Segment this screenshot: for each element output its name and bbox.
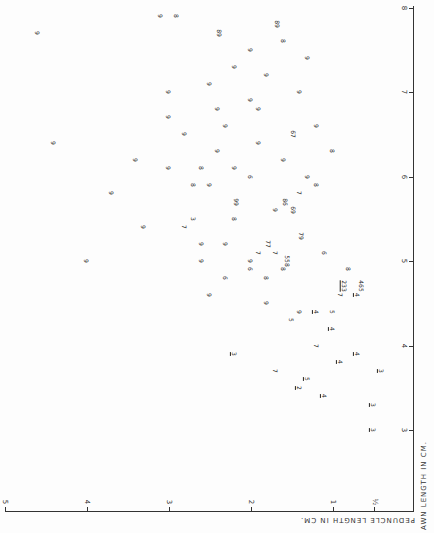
awn-tick [409, 8, 413, 9]
data-point: 9 [222, 124, 228, 128]
data-point: 67 [290, 130, 296, 138]
data-point: 9 [222, 242, 228, 246]
awn-tick-label: 4 [400, 343, 408, 347]
data-point: 9 [108, 191, 114, 195]
data-point: 9 [206, 82, 212, 86]
awn-tick-label: 3 [400, 428, 408, 432]
data-point: 465 [357, 281, 363, 292]
data-point: 9 [255, 141, 261, 145]
peduncle-tick-label: 5 [1, 500, 9, 504]
data-point: 8 [280, 39, 286, 43]
peduncle-tick [374, 507, 375, 511]
data-point: 9 [304, 175, 310, 179]
data-point: 79 [298, 232, 304, 240]
data-point: 86 [282, 198, 288, 206]
data-point: 7 [313, 344, 319, 348]
peduncle-axis-line [5, 511, 414, 512]
peduncle-tick-label: 4 [83, 500, 91, 504]
data-point: 9 [157, 14, 163, 18]
peduncle-tick-label: 2 [247, 500, 255, 504]
data-point: 9 [247, 48, 253, 52]
awn-axis-title: AWN LENGTH IN CM. [420, 441, 428, 530]
data-point: 9 [263, 73, 269, 77]
data-point: 8 [313, 183, 319, 187]
data-point: 4 [329, 327, 335, 331]
peduncle-tick [87, 507, 88, 511]
data-point: 9 [231, 65, 237, 69]
data-point: 8 [329, 149, 335, 153]
peduncle-tick-label: 1 [329, 500, 337, 504]
peduncle-tick [333, 507, 334, 511]
data-point: 9 [263, 301, 269, 305]
data-point: 6 [247, 268, 253, 272]
peduncle-tick-label: ½ [371, 499, 379, 506]
awn-tick-label: 6 [400, 174, 408, 178]
awn-tick [409, 92, 413, 93]
data-point: 9 [140, 225, 146, 229]
data-point: 8 [173, 14, 179, 18]
data-point: 9 [132, 158, 138, 162]
data-point: 7 [337, 293, 343, 297]
awn-tick [409, 177, 413, 178]
data-point: 6 [222, 276, 228, 280]
data-point: 9 [272, 208, 278, 212]
data-point: 5 [288, 318, 294, 322]
data-point: 89 [216, 29, 222, 37]
data-point: 4 [337, 360, 343, 364]
data-point: 9 [206, 293, 212, 297]
data-point: 9 [296, 310, 302, 314]
awn-tick [409, 346, 413, 347]
data-point: 9 [50, 141, 56, 145]
data-point: 9 [165, 115, 171, 119]
data-point: 2 [296, 386, 302, 390]
data-point: 9 [231, 166, 237, 170]
data-point: 9 [247, 99, 253, 103]
data-point: 9 [165, 90, 171, 94]
data-point: 3 [370, 403, 376, 407]
data-point: 7 [255, 251, 261, 255]
data-point: 9 [255, 107, 261, 111]
data-point: 3 [231, 352, 237, 356]
peduncle-tick [251, 507, 252, 511]
awn-tick [409, 430, 413, 431]
data-point: 89 [273, 21, 279, 29]
awn-tick-label: 7 [400, 90, 408, 94]
data-point: 4 [354, 352, 360, 356]
data-point: 9 [280, 158, 286, 162]
data-point: 3 [378, 369, 384, 373]
data-point: 9 [34, 31, 40, 35]
data-point: 6 [321, 251, 327, 255]
data-point: 9 [214, 107, 220, 111]
data-point: 9 [198, 259, 204, 263]
data-point: 4 [321, 394, 327, 398]
data-point: 3 [190, 217, 196, 221]
data-point: 233 [341, 281, 347, 292]
data-point: 3 [370, 428, 376, 432]
data-point: 9 [206, 183, 212, 187]
data-point: 9 [198, 242, 204, 246]
scatter-figure: 345678 ½12345 AWN LENGTH IN CM. PEDUNCLE… [0, 0, 434, 533]
data-point: 77 [265, 240, 271, 248]
data-point: 9 [181, 132, 187, 136]
data-point: 99 [232, 198, 238, 206]
data-point: 7 [272, 369, 278, 373]
peduncle-tick-label: 3 [165, 500, 173, 504]
data-point: 8 [231, 217, 237, 221]
awn-tick-label: 5 [400, 259, 408, 263]
awn-axis-line [413, 6, 414, 512]
data-point: 8 [198, 166, 204, 170]
data-point: 5 [329, 310, 335, 314]
data-point: 9 [83, 259, 89, 263]
data-point: 6 [247, 175, 253, 179]
data-point: 9 [247, 259, 253, 263]
data-point: 8 [345, 268, 351, 272]
data-point: 7 [181, 225, 187, 229]
data-point: 7 [272, 251, 278, 255]
data-point: 8 [263, 276, 269, 280]
data-point: 558 [284, 255, 290, 266]
data-point: 9 [296, 90, 302, 94]
data-point: 9 [165, 166, 171, 170]
awn-tick-label: 8 [400, 5, 408, 9]
data-point: 9 [304, 56, 310, 60]
peduncle-tick [5, 507, 6, 511]
